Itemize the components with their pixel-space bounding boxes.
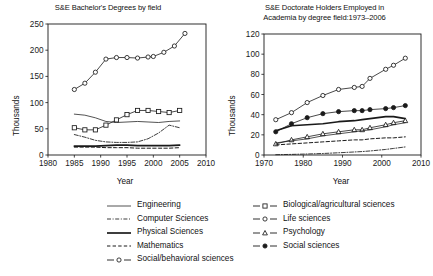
x-tick-label: 2005 <box>171 159 190 168</box>
legend-item-label: Social sciences <box>283 239 339 253</box>
x-tick-label: 2000 <box>144 159 163 168</box>
legend-item[interactable]: Psychology <box>252 225 395 239</box>
x-tick-label: 1980 <box>39 159 58 168</box>
legend-item[interactable]: Mathematics <box>106 239 233 253</box>
legend-column-right: Biological/agricultural sciencesLife sci… <box>252 198 395 252</box>
legend-marker <box>106 252 132 266</box>
series-mathematics <box>74 147 179 148</box>
figure-root: S&E Bachelor's Degrees by field Thousand… <box>0 0 433 276</box>
legend-key-dash-dot-icon <box>106 212 132 226</box>
chart-panel-bachelors: S&E Bachelor's Degrees by field Thousand… <box>0 0 216 196</box>
y-tick-label: 200 <box>30 46 44 55</box>
x-tick-label: 1970 <box>255 159 274 168</box>
legend-key-dashed-icon <box>106 239 132 253</box>
plot-area-doctorate: 19701980199020002010020406080100120 <box>216 0 433 196</box>
legend-item-label: Mathematics <box>137 239 183 253</box>
legend-item[interactable]: Life sciences <box>252 212 395 226</box>
chart-panel-doctorate: S&E Doctorate Holders Employed in Academ… <box>216 0 433 196</box>
x-tick-label: 1985 <box>65 159 84 168</box>
y-tick-label: 250 <box>30 20 44 29</box>
legend-item-label: Biological/agricultural sciences <box>283 198 395 212</box>
legend-item[interactable]: Social sciences <box>252 239 395 253</box>
legend-key-open-circle-icon <box>106 253 132 267</box>
plot-area-bachelors: 1980198519901995200020052010050100150200… <box>0 0 216 196</box>
legend-item[interactable]: Social/behavioral sciences <box>106 252 233 266</box>
x-tick-label: 2000 <box>373 159 392 168</box>
series-computer-sciences <box>74 125 179 142</box>
legend-marker <box>252 198 278 212</box>
x-tick-label: 2010 <box>412 159 431 168</box>
legend-key-open-circle-icon <box>252 212 278 226</box>
legend-key-solid-thick-icon <box>106 226 132 240</box>
legend-marker <box>252 212 278 226</box>
x-tick-label: 2010 <box>197 159 216 168</box>
legend-key-solid-thin-icon <box>106 199 132 213</box>
y-tick-label: 20 <box>250 131 260 140</box>
y-tick-label: 100 <box>30 99 44 108</box>
legend-marker <box>252 239 278 253</box>
series-biological-agricultural-sciences <box>72 108 182 132</box>
series-mathematics <box>276 137 406 145</box>
x-tick-label: 1995 <box>118 159 137 168</box>
legend-item-label: Computer Sciences <box>137 212 208 226</box>
legend-marker <box>252 225 278 239</box>
series-social-behavioral-sciences <box>72 31 187 91</box>
legend-marker <box>106 198 132 212</box>
x-tick-label: 1990 <box>92 159 111 168</box>
legend-item[interactable]: Physical Sciences <box>106 225 233 239</box>
legend-key-open-triangle-icon <box>252 226 278 240</box>
series-physical-sciences <box>74 145 179 146</box>
legend-key-open-square-icon <box>252 199 278 213</box>
y-tick-label: 150 <box>30 72 44 81</box>
series-computer-sciences <box>276 147 406 155</box>
legend-item-label: Psychology <box>283 225 325 239</box>
x-tick-label: 1980 <box>294 159 313 168</box>
legend-item-label: Social/behavioral sciences <box>137 252 233 266</box>
legend-item-label: Life sciences <box>283 212 330 226</box>
legend-column-left: EngineeringComputer SciencesPhysical Sci… <box>106 198 233 266</box>
y-tick-label: 120 <box>246 30 260 39</box>
legend-item[interactable]: Computer Sciences <box>106 212 233 226</box>
y-tick-label: 60 <box>250 91 260 100</box>
x-tick-label: 1990 <box>333 159 352 168</box>
legend-item-label: Physical Sciences <box>137 225 203 239</box>
legend-item-label: Engineering <box>137 198 181 212</box>
y-tick-label: 50 <box>34 125 44 134</box>
legend-marker <box>106 239 132 253</box>
y-tick-label: 100 <box>246 50 260 59</box>
y-tick-label: 80 <box>250 70 260 79</box>
legend-marker <box>106 212 132 226</box>
y-tick-label: 0 <box>255 151 260 160</box>
legend: EngineeringComputer SciencesPhysical Sci… <box>0 198 433 276</box>
legend-marker <box>106 225 132 239</box>
legend-key-filled-circle-icon <box>252 239 278 253</box>
legend-item[interactable]: Biological/agricultural sciences <box>252 198 395 212</box>
legend-item[interactable]: Engineering <box>106 198 233 212</box>
y-tick-label: 0 <box>39 151 44 160</box>
y-tick-label: 40 <box>250 111 260 120</box>
series-social-sciences <box>274 103 408 133</box>
